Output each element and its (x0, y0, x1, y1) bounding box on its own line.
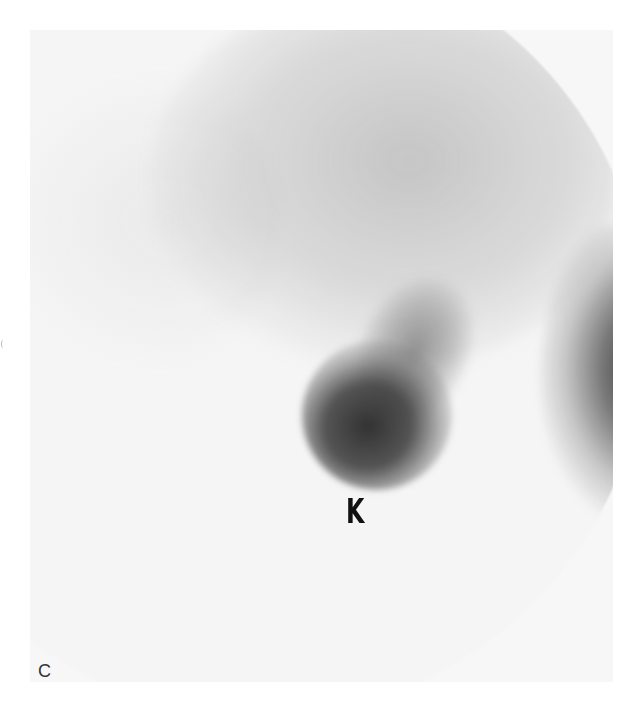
edge-tick-mark (1, 340, 6, 348)
panel-label: C (38, 661, 51, 682)
scintigraphy-image (30, 30, 613, 682)
scan-figure: K C (0, 0, 642, 703)
kidney-label: K (346, 492, 364, 531)
